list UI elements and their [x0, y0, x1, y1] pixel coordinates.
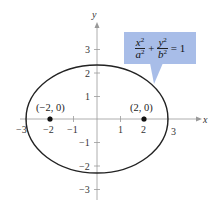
point-left-focus [47, 116, 52, 121]
y-tick-label: −3 [79, 184, 90, 195]
exponent: 2 [141, 48, 145, 56]
x-tick-label: 3 [171, 126, 176, 137]
x-tick-label: −1 [67, 124, 78, 135]
x-tick-label: 2 [141, 124, 146, 135]
exponent: 2 [163, 36, 167, 44]
x-axis-label: x [202, 114, 208, 125]
point-label-right: (2, 0) [130, 102, 153, 114]
exponent: 2 [141, 36, 145, 44]
equals-one: = 1 [171, 42, 185, 54]
plus-sign: + [148, 42, 154, 54]
y-tick-label: 1 [85, 91, 90, 102]
x-tick-label: −2 [43, 124, 54, 135]
point-label-left: (−2, 0) [36, 102, 65, 114]
equation-callout: x2 a2 + y2 b2 = 1 [124, 32, 196, 64]
y-axis-label: y [91, 9, 97, 20]
x-tick-label: 1 [118, 124, 123, 135]
fraction-y-over-b: y2 b2 [157, 37, 167, 60]
fraction-x-over-a: x2 a2 [135, 37, 145, 60]
y-tick-label: 3 [85, 44, 90, 55]
x-tick-label: −3 [16, 124, 27, 135]
y-tick-label: −1 [79, 137, 90, 148]
y-tick-label: 2 [85, 68, 90, 79]
callout-pointer [150, 63, 163, 84]
exponent: 2 [164, 48, 168, 56]
point-right-focus [141, 116, 146, 121]
y-axis-arrow-icon [95, 22, 100, 28]
y-tick-label: −2 [79, 161, 90, 172]
x-axis-arrow-icon [196, 117, 202, 122]
